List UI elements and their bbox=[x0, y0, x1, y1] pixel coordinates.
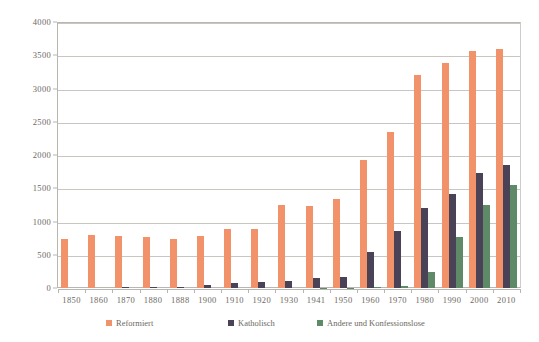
bar-1980-2[interactable] bbox=[428, 272, 435, 288]
bar-1980-0[interactable] bbox=[414, 75, 421, 288]
bar-1941-0[interactable] bbox=[306, 206, 313, 288]
x-tick-mark bbox=[493, 289, 494, 293]
x-axis-tick-label: 2010 bbox=[497, 295, 516, 305]
bar-1950-0[interactable] bbox=[333, 199, 340, 288]
bar-1990-2[interactable] bbox=[456, 237, 463, 288]
x-tick-mark bbox=[411, 289, 412, 293]
bar-2000-2[interactable] bbox=[483, 205, 490, 288]
bar-1910-1[interactable] bbox=[231, 283, 238, 288]
bar-1888-0[interactable] bbox=[170, 239, 177, 288]
x-tick-mark bbox=[330, 289, 331, 293]
bar-1850-0[interactable] bbox=[61, 239, 68, 288]
x-tick-mark bbox=[275, 289, 276, 293]
x-tick-mark bbox=[221, 289, 222, 293]
x-tick-mark bbox=[140, 289, 141, 293]
y-axis-tick-label: 500 bbox=[37, 250, 51, 260]
bar-group bbox=[275, 22, 302, 288]
y-axis-tick-label: 3000 bbox=[33, 84, 51, 94]
bar-1870-0[interactable] bbox=[115, 236, 122, 288]
x-axis-tick-label: 1920 bbox=[253, 295, 272, 305]
bar-1880-0[interactable] bbox=[143, 237, 150, 288]
x-tick-mark bbox=[248, 289, 249, 293]
x-axis-tick-label: 1980 bbox=[416, 295, 435, 305]
x-tick-mark bbox=[357, 289, 358, 293]
x-axis-tick-label: 2000 bbox=[470, 295, 489, 305]
x-axis-tick-label: 1850 bbox=[62, 295, 81, 305]
bar-group bbox=[85, 22, 112, 288]
bar-2000-0[interactable] bbox=[469, 51, 476, 288]
bar-1930-0[interactable] bbox=[278, 205, 285, 288]
bar-group bbox=[303, 22, 330, 288]
chart-legend: ReformiertKatholischAndere und Konfessio… bbox=[0, 314, 539, 332]
bar-1860-0[interactable] bbox=[88, 235, 95, 288]
bar-1888-1[interactable] bbox=[177, 287, 184, 288]
legend-item-1[interactable]: Katholisch bbox=[228, 318, 275, 328]
bar-1900-1[interactable] bbox=[204, 285, 211, 288]
bar-2000-1[interactable] bbox=[476, 173, 483, 288]
bar-group bbox=[411, 22, 438, 288]
bar-1960-0[interactable] bbox=[360, 160, 367, 288]
legend-label: Andere und Konfessionslose bbox=[327, 318, 425, 328]
bar-1990-0[interactable] bbox=[442, 63, 449, 288]
bar-1880-1[interactable] bbox=[150, 287, 157, 288]
x-axis-tick-label: 1941 bbox=[307, 295, 326, 305]
x-axis-tick-label: 1910 bbox=[225, 295, 244, 305]
bar-group bbox=[167, 22, 194, 288]
bar-1941-1[interactable] bbox=[313, 278, 320, 288]
x-axis: 1850186018701880188819001910192019301941… bbox=[58, 289, 520, 311]
x-tick-mark bbox=[466, 289, 467, 293]
legend-item-0[interactable]: Reformiert bbox=[106, 318, 153, 328]
x-axis-tick-label: 1950 bbox=[334, 295, 353, 305]
x-tick-mark bbox=[438, 289, 439, 293]
x-tick-mark bbox=[520, 289, 521, 293]
legend-swatch-icon bbox=[228, 320, 234, 326]
x-axis-tick-label: 1900 bbox=[198, 295, 217, 305]
bar-1870-1[interactable] bbox=[122, 287, 129, 288]
y-axis-tick-label: 2000 bbox=[33, 150, 51, 160]
x-tick-mark bbox=[58, 289, 59, 293]
bar-1960-1[interactable] bbox=[367, 252, 374, 288]
bar-1900-0[interactable] bbox=[197, 236, 204, 288]
x-axis-tick-label: 1930 bbox=[280, 295, 299, 305]
x-axis-tick-label: 1888 bbox=[171, 295, 190, 305]
x-axis-tick-label: 1990 bbox=[443, 295, 462, 305]
bar-group bbox=[248, 22, 275, 288]
bar-1920-1[interactable] bbox=[258, 282, 265, 288]
x-tick-mark bbox=[85, 289, 86, 293]
y-axis-tick-label: 0 bbox=[46, 283, 51, 293]
y-axis-tick-label: 4000 bbox=[33, 17, 51, 27]
legend-label: Reformiert bbox=[116, 318, 153, 328]
bar-group bbox=[493, 22, 520, 288]
bar-1970-2[interactable] bbox=[401, 286, 408, 288]
bar-2010-2[interactable] bbox=[510, 185, 517, 288]
bar-1950-1[interactable] bbox=[340, 277, 347, 288]
bar-chart: 05001000150020002500300035004000 1850186… bbox=[0, 0, 539, 342]
bar-group bbox=[330, 22, 357, 288]
bar-group bbox=[466, 22, 493, 288]
legend-item-2[interactable]: Andere und Konfessionslose bbox=[317, 318, 425, 328]
bar-2010-1[interactable] bbox=[503, 165, 510, 288]
bars-layer bbox=[58, 22, 520, 288]
bar-2010-0[interactable] bbox=[496, 49, 503, 288]
bar-1920-0[interactable] bbox=[251, 229, 258, 288]
y-axis-tick-label: 2500 bbox=[33, 117, 51, 127]
bar-1980-1[interactable] bbox=[421, 208, 428, 288]
bar-group bbox=[384, 22, 411, 288]
x-axis-tick-label: 1960 bbox=[361, 295, 380, 305]
bar-group bbox=[221, 22, 248, 288]
bar-1970-1[interactable] bbox=[394, 231, 401, 288]
x-axis-tick-label: 1880 bbox=[144, 295, 163, 305]
legend-swatch-icon bbox=[106, 320, 112, 326]
bar-1960-2[interactable] bbox=[374, 287, 381, 288]
y-axis-tick-label: 3500 bbox=[33, 50, 51, 60]
x-tick-mark bbox=[167, 289, 168, 293]
x-tick-mark bbox=[384, 289, 385, 293]
bar-group bbox=[112, 22, 139, 288]
bar-1930-1[interactable] bbox=[285, 281, 292, 288]
bar-1910-0[interactable] bbox=[224, 229, 231, 288]
bar-1970-0[interactable] bbox=[387, 132, 394, 288]
bar-1990-1[interactable] bbox=[449, 194, 456, 288]
x-tick-mark bbox=[112, 289, 113, 293]
bar-group bbox=[58, 22, 85, 288]
x-axis-tick-label: 1970 bbox=[388, 295, 407, 305]
